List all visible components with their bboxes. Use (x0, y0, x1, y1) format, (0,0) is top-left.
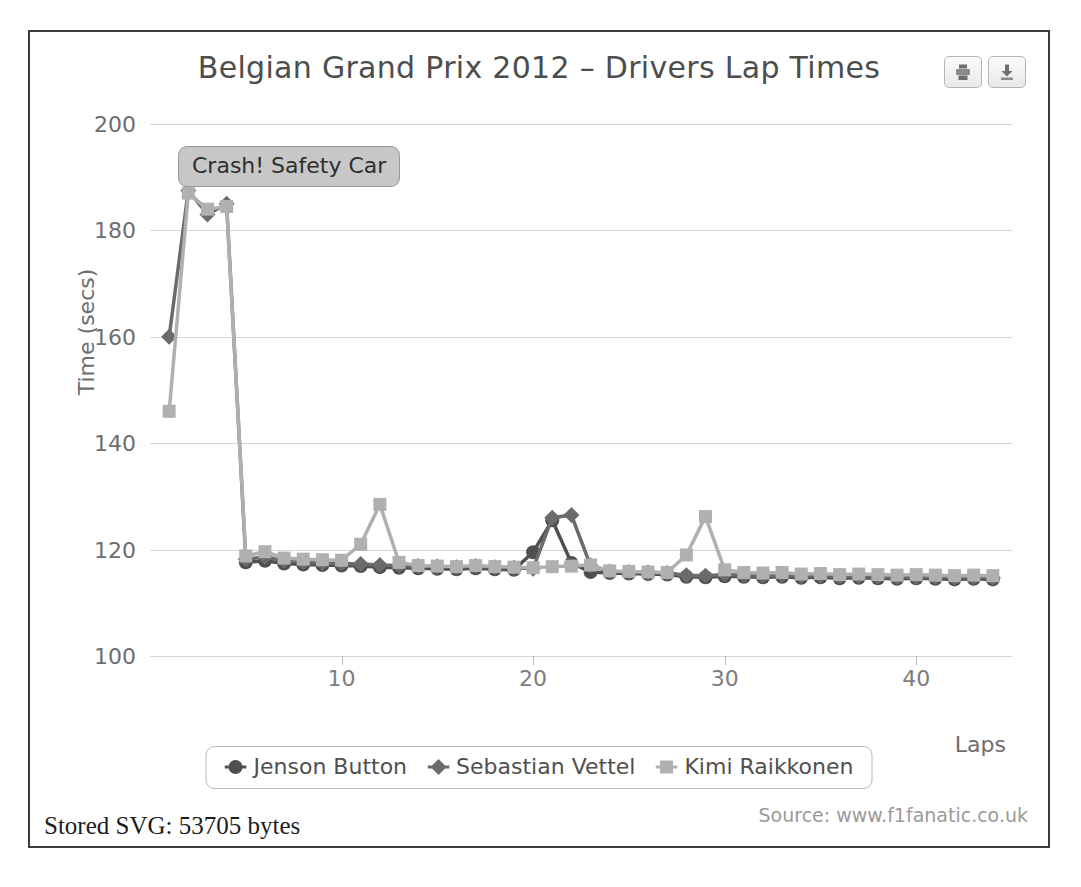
page-title: Belgian Grand Prix 2012 – Drivers Lap Ti… (30, 50, 1048, 85)
series-kimi-raikkonen (163, 187, 1000, 583)
data-point-marker (756, 567, 769, 580)
y-tick-label: 180 (94, 218, 136, 243)
x-tick-mark (533, 656, 534, 665)
x-tick-label: 30 (711, 666, 739, 691)
data-point-marker (316, 553, 329, 566)
plot-area: 100120140160180200 10203040 (150, 124, 1012, 656)
data-point-marker (563, 507, 579, 523)
data-point-marker (278, 552, 291, 565)
data-point-marker (699, 510, 712, 523)
data-point-marker (833, 568, 846, 581)
data-point-marker (182, 187, 195, 200)
chart-legend: Jenson ButtonSebastian VettelKimi Raikko… (206, 746, 873, 789)
data-point-marker (661, 566, 674, 579)
data-point-marker (986, 569, 999, 582)
download-icon (997, 62, 1017, 82)
data-point-marker (450, 560, 463, 573)
data-point-marker (622, 565, 635, 578)
data-point-marker (431, 560, 444, 573)
data-point-marker (967, 569, 980, 582)
y-tick-label: 100 (94, 644, 136, 669)
y-tick-label: 140 (94, 431, 136, 456)
legend-label: Sebastian Vettel (456, 754, 635, 779)
data-point-marker (948, 569, 961, 582)
data-point-marker (776, 566, 789, 579)
data-point-marker (220, 200, 233, 213)
data-point-marker (680, 548, 693, 561)
data-point-marker (737, 566, 750, 579)
x-tick-label: 20 (519, 666, 547, 691)
gridline (150, 656, 1012, 657)
data-point-marker (891, 569, 904, 582)
data-point-marker (565, 560, 578, 573)
data-point-marker (910, 568, 923, 581)
data-point-marker (430, 759, 446, 775)
series-line (169, 193, 993, 576)
x-tick-mark (342, 656, 343, 665)
data-point-marker (469, 559, 482, 572)
x-tick-label: 40 (902, 666, 930, 691)
screenshot-page: Belgian Grand Prix 2012 – Drivers Lap Ti… (0, 0, 1081, 887)
x-tick-label: 10 (328, 666, 356, 691)
data-point-marker (335, 554, 348, 567)
y-tick-label: 160 (94, 324, 136, 349)
data-point-marker (373, 498, 386, 511)
y-tick-label: 120 (94, 537, 136, 562)
data-point-marker (297, 553, 310, 566)
data-point-marker (201, 203, 214, 216)
data-point-marker (814, 567, 827, 580)
data-point-marker (354, 538, 367, 551)
data-point-marker (527, 561, 540, 574)
chart-card: Belgian Grand Prix 2012 – Drivers Lap Ti… (30, 32, 1048, 846)
data-point-marker (795, 568, 808, 581)
legend-item-jenson-button[interactable]: Jenson Button (225, 754, 408, 779)
legend-item-kimi-raikkonen[interactable]: Kimi Raikkonen (655, 754, 853, 779)
legend-label: Jenson Button (254, 754, 408, 779)
stored-svg-status: Stored SVG: 53705 bytes (44, 812, 300, 840)
y-tick-label: 200 (94, 112, 136, 137)
data-point-marker (852, 568, 865, 581)
data-point-marker (488, 560, 501, 573)
source-attribution: Source: www.f1fanatic.co.uk (759, 804, 1028, 826)
document-frame: Belgian Grand Prix 2012 – Drivers Lap Ti… (28, 30, 1050, 848)
series-line (169, 191, 993, 578)
x-tick-mark (916, 656, 917, 665)
data-point-marker (239, 549, 252, 562)
series-layer (150, 124, 1012, 656)
data-point-marker (642, 565, 655, 578)
download-button[interactable] (988, 56, 1026, 88)
legend-marker-icon (225, 758, 247, 776)
legend-item-sebastian-vettel[interactable]: Sebastian Vettel (427, 754, 635, 779)
legend-marker-icon (427, 758, 449, 776)
data-point-marker (163, 405, 176, 418)
print-button[interactable] (944, 56, 982, 88)
legend-marker-icon (655, 758, 677, 776)
series-sebastian-vettel (161, 183, 1001, 586)
data-point-marker (412, 559, 425, 572)
data-point-marker (393, 556, 406, 569)
data-point-marker (584, 559, 597, 572)
data-point-marker (258, 545, 271, 558)
x-tick-mark (725, 656, 726, 665)
data-point-marker (229, 760, 243, 774)
chart-toolbar (944, 56, 1026, 88)
data-point-marker (507, 561, 520, 574)
print-icon (953, 62, 973, 82)
x-axis-title: Laps (955, 732, 1006, 757)
data-point-marker (546, 560, 559, 573)
data-point-marker (718, 563, 731, 576)
data-point-marker (929, 569, 942, 582)
data-point-marker (871, 568, 884, 581)
data-point-marker (603, 564, 616, 577)
legend-label: Kimi Raikkonen (684, 754, 853, 779)
safety-car-annotation: Crash! Safety Car (178, 146, 400, 187)
data-point-marker (660, 760, 673, 773)
